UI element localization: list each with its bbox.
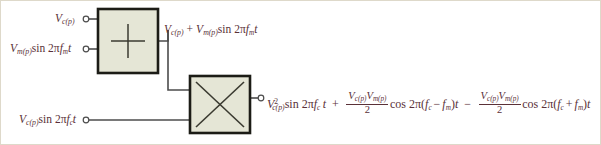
label-input-carrier-sine-symbol: V xyxy=(19,113,26,125)
label-input-modulating-time: t xyxy=(68,42,71,54)
label-output-equation: V2c(p)sin 2πfc t + Vc(p)Vm(p)2cos 2π(fc−… xyxy=(267,91,590,116)
label-input-carrier-dc-symbol: V xyxy=(55,12,62,24)
output-term1-function: sin 2π xyxy=(285,97,314,111)
output-term2-function: cos 2π( xyxy=(390,97,425,111)
output-term1-time: t xyxy=(323,97,326,111)
label-input-modulating-subscript: m(p) xyxy=(17,47,32,56)
output-term2-minus: − xyxy=(432,97,443,111)
terminal-carrier-dc-input[interactable] xyxy=(83,16,89,22)
output-term2-denominator: 2 xyxy=(346,105,388,116)
label-input-carrier-sine-function: sin 2π xyxy=(39,113,67,125)
label-summer-output-time: t xyxy=(254,23,257,35)
output-term1-frequency-subscript: c xyxy=(317,104,320,112)
output-term3-fraction: Vc(p)Vm(p)2 xyxy=(479,91,521,116)
output-term3-numerator: Vc(p)Vm(p) xyxy=(479,91,521,103)
output-term2-fraction: Vc(p)Vm(p)2 xyxy=(346,91,388,116)
label-input-carrier-dc: Vc(p) xyxy=(55,13,75,26)
figure-frame xyxy=(1,1,601,145)
label-input-modulating-function: sin 2π xyxy=(32,42,60,54)
output-equation-operator-1: + xyxy=(329,97,342,111)
output-term3-num-v2-subscript: m(p) xyxy=(505,95,519,103)
output-term3-num-v1-subscript: c(p) xyxy=(487,95,499,103)
label-input-modulating: Vm(p)sin 2πfmt xyxy=(10,43,71,56)
label-summer-output: Vc(p)+Vm(p)sin 2πfmt xyxy=(164,24,257,37)
output-equation-term2: Vc(p)Vm(p)2cos 2π(fc−fm)t xyxy=(345,97,458,111)
terminal-output[interactable] xyxy=(258,95,264,101)
label-summer-output-function: sin 2π xyxy=(218,23,246,35)
output-term3-time: t xyxy=(587,97,590,111)
output-term3-denominator: 2 xyxy=(479,105,521,116)
label-summer-output-v2-subscript: m(p) xyxy=(203,28,218,37)
label-input-carrier-sine: Vc(p)sin 2πfct xyxy=(19,114,76,127)
label-input-modulating-symbol: V xyxy=(10,42,17,54)
wire-summer-to-multiplier xyxy=(168,30,190,90)
label-summer-output-plus: + xyxy=(184,23,197,35)
balanced-modulator-figure: Vc(p) Vm(p)sin 2πfmt Vc(p)sin 2πfct Vc(p… xyxy=(0,0,601,145)
label-input-carrier-dc-subscript: c(p) xyxy=(62,17,75,26)
label-input-carrier-sine-time: t xyxy=(73,113,76,125)
output-term2-num-v2-subscript: m(p) xyxy=(373,95,387,103)
diagram-canvas xyxy=(0,0,601,145)
label-summer-output-v1: V xyxy=(164,23,171,35)
output-equation-term1: V2c(p)sin 2πfc t xyxy=(267,97,326,111)
output-term2-num-v1-subscript: c(p) xyxy=(355,95,367,103)
output-equation-term3: Vc(p)Vm(p)2cos 2π(fc+fm)t xyxy=(477,97,590,111)
output-term2-numerator: Vc(p)Vm(p) xyxy=(346,91,388,103)
label-input-carrier-sine-subscript: c(p) xyxy=(26,118,39,127)
terminal-modulating-input[interactable] xyxy=(83,46,89,52)
terminal-carrier-sine-input[interactable] xyxy=(83,117,89,123)
output-term2-time: t xyxy=(455,97,458,111)
label-summer-output-v1-subscript: c(p) xyxy=(171,28,184,37)
output-term3-plus: + xyxy=(564,97,575,111)
output-term3-function: cos 2π( xyxy=(522,97,557,111)
output-term1-subscript: c(p) xyxy=(272,103,285,112)
output-equation-operator-2: − xyxy=(461,97,474,111)
